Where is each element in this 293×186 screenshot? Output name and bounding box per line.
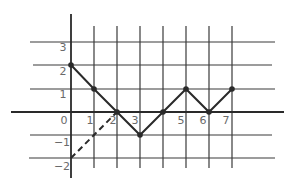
x-tick-labels: 0 1 2 3 5 6 7 (61, 114, 230, 127)
x-label-7: 7 (223, 114, 230, 127)
solid-line-series (71, 65, 232, 135)
y-label-1: 1 (60, 88, 67, 101)
y-label-neg1: −1 (54, 136, 70, 149)
line-graph: 3 2 1 −1 −2 0 1 2 3 5 6 7 (0, 0, 293, 186)
x-label-6: 6 (200, 114, 207, 127)
x-label-2: 2 (110, 114, 117, 127)
y-tick-labels: 3 2 1 −1 −2 (54, 41, 70, 173)
y-label-2: 2 (60, 65, 67, 78)
x-label-1: 1 (87, 114, 94, 127)
vertical-grid-lines (94, 26, 232, 168)
x-label-5: 5 (178, 114, 185, 127)
x-label-0: 0 (61, 114, 68, 127)
y-label-neg2: −2 (54, 160, 70, 173)
x-label-3: 3 (132, 114, 139, 127)
y-label-3: 3 (60, 41, 67, 54)
